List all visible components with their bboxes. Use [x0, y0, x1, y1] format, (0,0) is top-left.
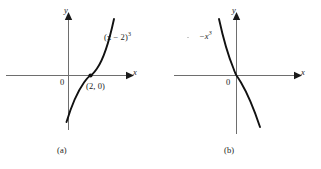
panel-b: y x 0 −x3 (b) — [161, 0, 321, 169]
panel-a-caption: (a) — [57, 146, 67, 155]
y-axis-label: y — [64, 6, 68, 15]
curve-equation-base: −x — [199, 31, 209, 41]
origin-label: 0 — [226, 78, 230, 87]
panel-b-caption: (b) — [224, 146, 234, 155]
point-marker-2-0 — [88, 73, 92, 77]
curve-equation-exponent: 3 — [209, 30, 212, 36]
curve-equation-label: (x − 2)3 — [104, 33, 131, 42]
y-axis-label: y — [232, 6, 236, 15]
cubic-functions-figure: y x 0 (x − 2)3 (2, 0) (a) y x 0 −x3 (b) — [0, 0, 321, 169]
x-axis-label: x — [133, 68, 137, 77]
point-coordinate-label: (2, 0) — [86, 82, 105, 91]
panel-a-plot — [0, 0, 160, 169]
curve-equation-exponent: 3 — [128, 31, 131, 37]
x-axis-label: x — [301, 68, 305, 77]
print-speck-artifact — [187, 37, 189, 38]
curve-equation-label: −x3 — [199, 32, 212, 41]
panel-b-plot — [161, 0, 321, 169]
cubic-curve-negated — [219, 19, 260, 127]
panel-a: y x 0 (x − 2)3 (2, 0) (a) — [0, 0, 160, 169]
origin-label: 0 — [60, 78, 64, 87]
curve-equation-base: (x − 2) — [104, 32, 128, 42]
